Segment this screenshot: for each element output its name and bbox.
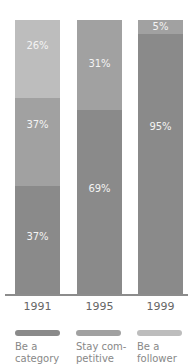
legend-label: Stay com- petitive: [76, 341, 131, 364]
segment-competitive-1995: 31%: [77, 20, 122, 110]
bar-1999: 5% 95%: [138, 20, 183, 295]
x-tick-1999: 1999: [138, 300, 183, 313]
x-tick-1991: 1991: [15, 300, 60, 313]
segment-label: 37%: [15, 231, 60, 242]
legend-item-follower: Be a follower: [137, 330, 187, 364]
segment-competitive-1999: 5%: [138, 20, 183, 34]
segment-label: 31%: [77, 58, 122, 69]
segment-category-1999: 95%: [138, 34, 183, 295]
legend-label: Be a follower: [137, 341, 192, 364]
segment-label: 37%: [15, 119, 60, 130]
legend-label: Be a category: [15, 341, 70, 364]
segment-label: 26%: [15, 40, 60, 51]
segment-label: 69%: [77, 183, 122, 194]
segment-follower-1991: 26%: [15, 20, 60, 98]
segment-category-1995: 69%: [77, 110, 122, 295]
bar-1991: 26% 37% 37%: [15, 20, 60, 295]
x-axis-line: [5, 294, 188, 296]
x-tick-1995: 1995: [77, 300, 122, 313]
legend-swatch: [76, 330, 121, 336]
segment-label: 95%: [138, 121, 183, 132]
legend-swatch: [137, 330, 182, 336]
legend-swatch: [15, 330, 60, 336]
bar-1995: 31% 69%: [77, 20, 122, 295]
legend-item-category: Be a category: [15, 330, 65, 364]
legend-item-competitive: Stay com- petitive: [76, 330, 126, 364]
segment-label: 5%: [138, 21, 183, 32]
segment-competitive-1991: 37%: [15, 98, 60, 186]
segment-category-1991: 37%: [15, 186, 60, 295]
